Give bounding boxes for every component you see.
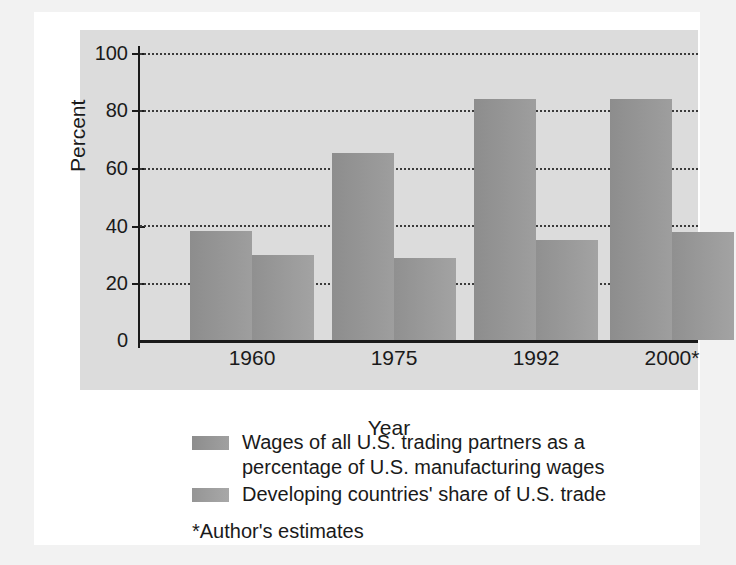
- legend-label-series1: Wages of all U.S. trading partners as a …: [242, 430, 604, 480]
- scanned-page: Percent 100 80 60 40 20 0: [0, 0, 736, 565]
- bar-2000-series1: [610, 99, 672, 340]
- chart-legend: Wages of all U.S. trading partners as a …: [192, 430, 662, 509]
- bar-1992-series2: [536, 240, 598, 340]
- legend-item-series2: Developing countries' share of U.S. trad…: [192, 482, 662, 507]
- plot-area: [140, 53, 698, 340]
- legend-swatch-series1-icon: [192, 436, 229, 450]
- y-tick-label-0: 0: [82, 329, 128, 352]
- legend-label-series2: Developing countries' share of U.S. trad…: [242, 482, 606, 507]
- gridline-100: [140, 53, 698, 55]
- x-tick-label-1960: 1960: [229, 346, 276, 370]
- legend-label-series1-line1: Wages of all U.S. trading partners as a: [242, 430, 604, 455]
- x-axis-tick-labels: 1960 1975 1992 2000*: [140, 346, 698, 386]
- bar-1975-series2: [394, 258, 456, 340]
- y-tick-label-100: 100: [82, 42, 128, 65]
- bar-chart: Percent 100 80 60 40 20 0: [80, 30, 698, 390]
- legend-swatch-series2-icon: [192, 488, 229, 502]
- chart-footnote: *Author's estimates: [192, 520, 364, 543]
- x-tick-label-1975: 1975: [371, 346, 418, 370]
- bar-1975-series1: [332, 153, 394, 340]
- bar-2000-series2: [672, 232, 734, 340]
- x-tick-label-1992: 1992: [513, 346, 560, 370]
- y-axis-tick-labels: 100 80 60 40 20 0: [80, 30, 128, 390]
- legend-label-series1-line2: percentage of U.S. manufacturing wages: [242, 455, 604, 480]
- x-axis-line: [138, 340, 698, 343]
- y-tick-label-40: 40: [82, 215, 128, 238]
- y-tick-label-60: 60: [82, 157, 128, 180]
- y-tick-label-80: 80: [82, 99, 128, 122]
- legend-item-series1: Wages of all U.S. trading partners as a …: [192, 430, 662, 480]
- legend-label-series2-line1: Developing countries' share of U.S. trad…: [242, 482, 606, 507]
- x-tick-label-2000: 2000*: [645, 346, 700, 370]
- bar-1960-series1: [190, 231, 252, 340]
- y-tick-label-20: 20: [82, 272, 128, 295]
- bar-1960-series2: [252, 255, 314, 340]
- bar-1992-series1: [474, 99, 536, 340]
- figure-card: Percent 100 80 60 40 20 0: [34, 12, 700, 545]
